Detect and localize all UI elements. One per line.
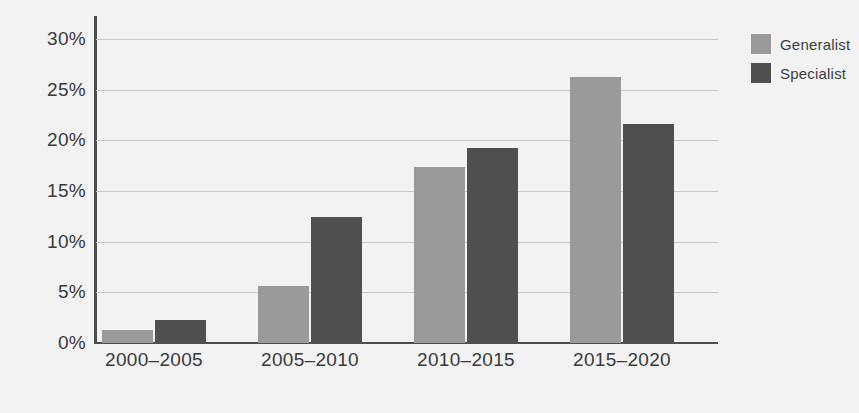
legend-item-generalist: Generalist (751, 34, 850, 54)
bar-specialist-2005-2010 (311, 217, 362, 343)
y-axis-tick-label: 30% (4, 28, 86, 50)
x-axis-tick-label: 2015–2020 (540, 349, 704, 371)
bar-generalist-2005-2010 (258, 286, 309, 343)
y-axis-tick-label: 5% (4, 281, 86, 303)
bar-generalist-2000-2005 (102, 330, 153, 343)
y-axis-tick-label: 20% (4, 129, 86, 151)
plot-area (96, 16, 718, 343)
bar-generalist-2015-2020 (570, 77, 621, 344)
chart-legend: Generalist Specialist (751, 34, 850, 92)
legend-swatch-generalist-icon (751, 34, 771, 54)
bar-specialist-2010-2015 (467, 148, 518, 343)
bar-specialist-2000-2005 (155, 320, 206, 343)
x-axis-tick-label: 2005–2010 (228, 349, 392, 371)
legend-label-generalist: Generalist (780, 36, 850, 53)
y-axis-tick-label: 10% (4, 231, 86, 253)
legend-item-specialist: Specialist (751, 63, 850, 83)
y-axis-tick-label: 15% (4, 180, 86, 202)
x-axis-tick-label: 2000–2005 (72, 349, 236, 371)
legend-swatch-specialist-icon (751, 63, 771, 83)
legend-label-specialist: Specialist (780, 65, 846, 82)
bar-generalist-2010-2015 (414, 167, 465, 343)
x-axis-tick-label: 2010–2015 (384, 349, 548, 371)
y-axis-tick-label: 25% (4, 79, 86, 101)
bar-chart-screenshot: 30%25%20%15%10%5%0% 2000–20052005–201020… (0, 0, 859, 413)
bar-specialist-2015-2020 (623, 124, 674, 343)
